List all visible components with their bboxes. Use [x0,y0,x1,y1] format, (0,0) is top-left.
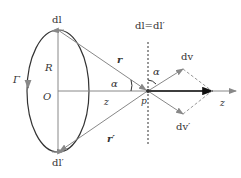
label-dl-equal: dl=dl′ [135,21,165,31]
alpha-arc-left [131,80,132,91]
label-dv-prime: dv′ [176,122,190,132]
label-r-prime: r′ [107,134,115,144]
label-O: O [43,92,51,102]
label-z-mid: z [104,98,109,107]
parallelogram-top [183,69,212,91]
label-alpha-right: α [153,67,160,77]
label-R: R [45,63,53,73]
label-z-axis: z [220,99,225,108]
label-dl-top: dl [52,15,62,25]
label-dv: dv [181,52,193,62]
diagram-graphics [0,0,241,178]
label-alpha-left: α [111,79,118,89]
label-dl-bottom: dl′ [52,158,64,168]
r-vector [58,30,146,90]
alpha-arc-right [148,80,156,84]
label-p: p [141,97,147,106]
r-prime-vector [60,92,146,151]
label-gamma: Γ [13,75,20,85]
parallelogram-bottom [183,91,212,114]
point-p [146,89,150,93]
diagram: dl dl=dl′ r R Γ α α dv O z p z dv′ r′ dl… [0,0,241,178]
dv-prime-vector [148,91,183,114]
label-r: r [117,55,122,65]
